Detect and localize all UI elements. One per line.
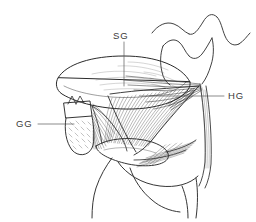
infrahyoid-fan	[134, 140, 196, 160]
label-gg: GG	[16, 119, 33, 129]
anatomical-figure: SG HG GG	[0, 0, 256, 222]
label-sg: SG	[113, 31, 129, 41]
label-hg: HG	[228, 91, 244, 101]
neck-contour	[92, 158, 198, 218]
stylohyoid-strap	[199, 84, 211, 188]
mandible-outline	[152, 15, 250, 85]
hyoid-bone	[96, 139, 168, 166]
mandible-symphysis-cross-section	[64, 101, 94, 155]
tongue-body-ellipse	[56, 56, 190, 109]
